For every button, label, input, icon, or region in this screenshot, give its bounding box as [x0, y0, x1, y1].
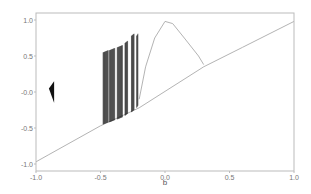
x-tick-label: -0.5: [94, 174, 106, 181]
x-tick-label: 0.5: [225, 174, 235, 181]
y-tick-label: -1.0: [21, 161, 33, 168]
plot-area: [36, 21, 294, 161]
x-tick-label: 1.0: [289, 174, 299, 181]
x-axis-label: b: [163, 178, 168, 187]
y-tick-label: -0.0: [21, 89, 33, 96]
bifurcation-chart: -1.0-0.50.00.51.01.00.5-0.0-0.5-1.0 b: [0, 0, 311, 194]
isolated-attractor-marker: [49, 81, 54, 103]
axes: -1.0-0.50.00.51.01.00.5-0.0-0.5-1.0: [21, 13, 299, 181]
fixed-point-branch-line: [36, 21, 294, 161]
y-tick-label: 0.5: [23, 53, 33, 60]
y-tick-label: -0.5: [21, 125, 33, 132]
plot-frame: [36, 13, 294, 171]
y-tick-label: 1.0: [23, 17, 33, 24]
x-tick-label: -1.0: [30, 174, 42, 181]
